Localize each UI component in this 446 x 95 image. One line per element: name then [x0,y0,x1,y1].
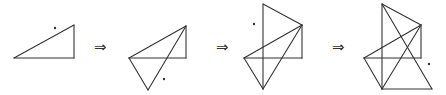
implies-arrow-3: ⇒ [332,40,345,55]
segment [244,58,263,89]
implies-arrow-1: ⇒ [94,40,107,55]
point-marker [54,27,56,29]
point-marker [163,78,165,80]
implies-arrow-2: ⇒ [216,40,229,55]
segment [263,4,302,25]
diagram-canvas: ⇒ ⇒ ⇒ [0,0,446,95]
segment [129,26,186,58]
segment [244,25,302,58]
segment [129,58,148,90]
figure-step-3 [244,4,302,89]
figure-step-2 [129,26,186,90]
point-marker [428,63,430,65]
figure-step-4 [364,4,432,89]
segment [14,25,74,58]
segment [263,25,302,89]
segment [364,58,382,89]
segment [364,25,421,58]
figure-step-1 [14,25,74,58]
segment [382,25,421,89]
point-marker [253,23,255,25]
